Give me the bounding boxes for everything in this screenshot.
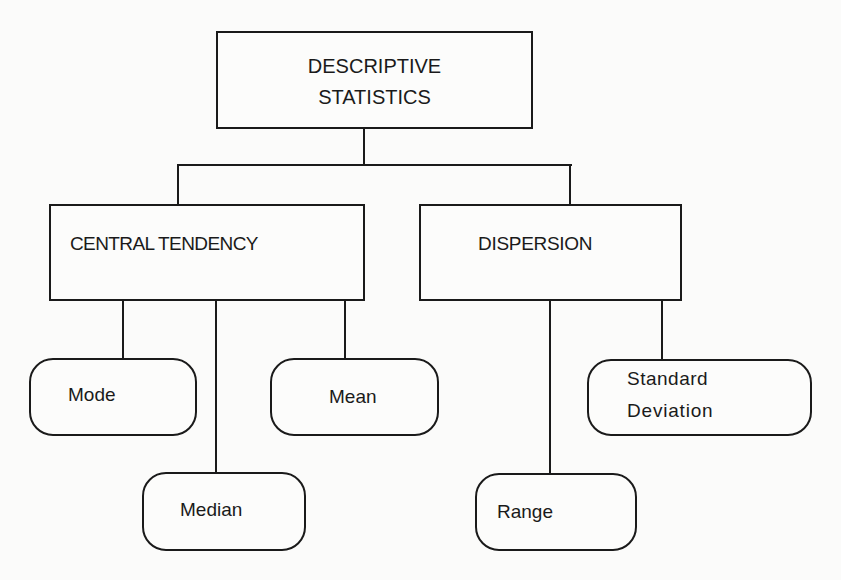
connector-mode — [122, 300, 124, 359]
node-dispersion: DISPERSION — [419, 204, 682, 301]
median-label: Median — [180, 497, 242, 523]
root-node-descriptive-statistics: DESCRIPTIVE STATISTICS — [216, 31, 533, 129]
sd-label-line2: Deviation — [627, 398, 713, 424]
root-label-line2: STATISTICS — [218, 84, 531, 110]
root-label-line1: DESCRIPTIVE — [218, 53, 531, 79]
connector-median — [215, 300, 217, 473]
node-mean: Mean — [270, 358, 439, 436]
connector-central — [177, 164, 179, 205]
mean-label: Mean — [329, 384, 377, 410]
connector-sd — [661, 300, 663, 360]
dispersion-label: DISPERSION — [478, 231, 592, 257]
connector-dispersion — [569, 164, 571, 205]
node-central-tendency: CENTRAL TENDENCY — [49, 204, 365, 301]
node-mode: Mode — [29, 358, 197, 436]
connector-mean — [344, 300, 346, 359]
range-label: Range — [497, 499, 553, 525]
mode-label: Mode — [68, 382, 116, 408]
node-range: Range — [475, 473, 637, 551]
connector-branch-bar — [177, 164, 572, 166]
connector-range — [549, 300, 551, 474]
node-standard-deviation: Standard Deviation — [587, 359, 812, 436]
node-median: Median — [142, 472, 306, 551]
central-tendency-label: CENTRAL TENDENCY — [70, 231, 258, 257]
sd-label-line1: Standard — [627, 366, 708, 392]
connector-root-stem — [363, 127, 365, 166]
